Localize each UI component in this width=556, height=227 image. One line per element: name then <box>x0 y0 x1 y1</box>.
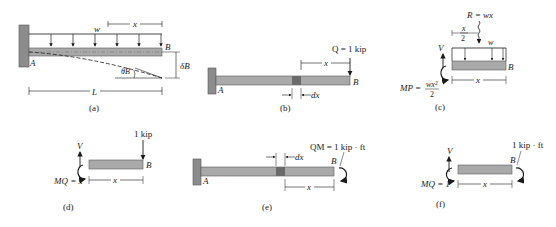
end-label-d: B <box>146 160 152 170</box>
end-label-c: B <box>508 62 514 72</box>
moment-load-arrow-f <box>516 168 524 181</box>
shear-label-f: V <box>447 146 454 156</box>
moment-load-label-f: 1 kip · ft <box>512 140 544 150</box>
dx-label-e: dx <box>295 152 304 162</box>
panel-c: R = wx x 2 w B V MP = wx² 2 x <box>399 10 514 112</box>
dx-label-b: dx <box>311 90 320 100</box>
load-label-c: w <box>488 38 494 47</box>
moment-num-c: wx² <box>426 80 438 89</box>
end-label-f: B <box>510 155 516 165</box>
beam-e <box>201 167 334 176</box>
x-label-f: x <box>482 179 487 189</box>
caption-e: (e) <box>262 202 272 212</box>
panel-e: A B dx QM = 1 kip · ft x (e) <box>193 142 366 212</box>
x-label-a: x <box>132 19 137 29</box>
half-x-den-c: 2 <box>461 34 465 43</box>
load-label-b: Q = 1 kip <box>332 44 367 54</box>
shear-label-d: V <box>77 141 84 151</box>
caption-d: (d) <box>63 202 74 212</box>
support-label-e: A <box>202 176 209 186</box>
moment-den-c: 2 <box>430 90 434 99</box>
deflection-label-a: δB <box>180 61 190 71</box>
x-label-d: x <box>112 175 117 185</box>
beam-b <box>216 76 350 85</box>
beam-c <box>452 61 506 70</box>
x-label-b: x <box>323 58 328 68</box>
slope-label-a: θB <box>121 67 130 76</box>
caption-f: (f) <box>436 199 445 209</box>
panel-b: A B Q = 1 kip x dx (b) <box>208 44 367 113</box>
moment-label-d: MQ = x <box>53 176 83 186</box>
caption-a: (a) <box>89 103 99 113</box>
support-label-a: A <box>29 58 36 68</box>
distributed-load-arrows-c <box>465 48 503 60</box>
moment-label-c: MP = <box>399 83 421 93</box>
beam-d <box>89 160 143 169</box>
support-label-b: A <box>217 85 224 95</box>
end-label-a: B <box>165 42 171 52</box>
beam-f <box>458 165 512 174</box>
distributed-load-arrows-a <box>51 34 161 46</box>
half-x-num-c: x <box>461 24 466 33</box>
caption-b: (b) <box>280 103 291 113</box>
panel-f: 1 kip · ft B V MQ = 1 x (f) <box>420 140 544 209</box>
x-label-e: x <box>306 182 311 192</box>
end-label-b: B <box>353 77 359 87</box>
fixed-wall-a <box>19 25 29 67</box>
moment-load-label-e: QM = 1 kip · ft <box>310 142 366 152</box>
moment-load-arrow-e <box>339 168 347 181</box>
fixed-wall-b <box>208 68 216 94</box>
moment-arrow-c <box>441 66 448 80</box>
beam-diagrams: x w B A δB θB L (a) A B Q = 1 kip x <box>0 0 556 227</box>
load-label-d: 1 kip <box>134 129 153 139</box>
resultant-label-c: R = wx <box>466 10 493 20</box>
resultant-arrow-c <box>478 21 480 43</box>
panel-d: 1 kip B V MQ = x x (d) <box>53 129 153 212</box>
element-dx-e <box>276 167 285 176</box>
end-label-e: B <box>331 156 337 166</box>
element-dx-b <box>292 76 301 85</box>
panel-a: x w B A δB θB L (a) <box>19 18 190 113</box>
fixed-wall-e <box>193 159 201 185</box>
caption-c: (c) <box>435 102 445 112</box>
shear-label-c: V <box>438 43 445 53</box>
length-label-a: L <box>91 87 97 97</box>
moment-label-f: MQ = 1 <box>420 179 450 189</box>
x-label-c: x <box>475 75 480 85</box>
load-label-a: w <box>94 24 100 34</box>
